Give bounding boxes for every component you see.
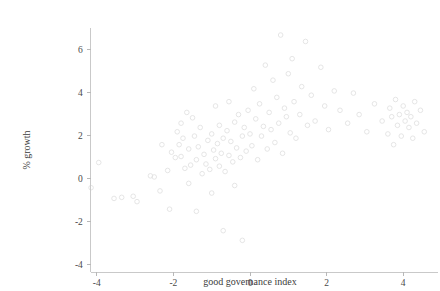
data-point [221,136,226,141]
data-point [422,129,427,134]
data-point [395,123,400,128]
data-point [338,108,343,113]
data-point [405,110,410,115]
data-point [190,116,195,121]
data-point [290,56,295,61]
data-point [294,136,299,141]
data-point [211,148,216,153]
data-point [179,121,184,126]
data-point [206,138,211,143]
data-point [194,209,199,214]
data-point [409,114,414,119]
data-point [278,33,283,38]
data-point [276,121,281,126]
data-point [345,121,350,126]
data-point [407,125,412,130]
data-point [234,146,239,151]
data-point [209,191,214,196]
data-point [372,102,377,107]
data-point [259,134,264,139]
data-point [397,112,402,117]
data-point [275,95,280,100]
data-point [365,129,370,134]
data-point [192,134,197,139]
data-point [265,147,270,152]
data-point [204,162,209,167]
y-axis-title: % growth [21,130,32,169]
data-point [252,86,257,91]
data-point [240,238,245,243]
y-tick-label: 2 [78,131,83,141]
data-point [229,139,234,144]
data-point [219,151,224,156]
data-point [299,84,304,89]
x-axis-title: good governance index [203,276,296,287]
data-point [387,106,392,111]
data-point [96,160,101,165]
data-point [240,134,245,139]
data-point [267,110,272,115]
data-point [326,127,331,132]
data-point [207,167,212,172]
data-point [244,149,249,154]
data-point [286,71,291,76]
data-point [215,141,220,146]
plot-canvas: -4-2024-4-20246 good governance index % … [0,0,440,291]
data-point [257,102,262,107]
data-point [288,131,293,136]
data-point [391,142,396,147]
data-point [158,189,163,194]
data-point [401,104,406,109]
x-tick-label: -2 [169,278,177,288]
data-point [185,110,190,115]
data-point [173,155,178,160]
data-point [179,154,184,159]
data-point [209,132,214,137]
data-point [319,65,324,70]
scatter-plot-figure: -4-2024-4-20246 good governance index % … [0,0,440,291]
tick-labels-group: -4-2024-4-20246 [75,45,406,289]
data-point [410,136,415,141]
data-point [248,132,253,137]
data-point [303,39,308,44]
data-points-group [89,33,427,243]
data-point [284,114,289,119]
data-point [213,104,218,109]
data-point [167,207,172,212]
data-point [227,99,232,104]
data-point [160,142,165,147]
data-point [292,99,297,104]
data-point [119,195,124,200]
data-point [322,104,327,109]
data-point [181,136,186,141]
data-point [403,119,408,124]
data-point [246,108,251,113]
axes-group [91,28,438,273]
data-point [380,119,385,124]
y-tick-label: -2 [75,217,83,227]
data-point [261,124,266,129]
data-point [399,134,404,139]
data-point [196,145,201,150]
data-point [198,125,203,130]
data-point [273,140,278,145]
y-tick-label: -4 [75,260,83,270]
data-point [232,183,237,188]
data-point [202,152,207,157]
data-point [418,108,423,113]
data-point [131,194,136,199]
data-point [271,78,276,83]
data-point [213,156,218,161]
data-point [242,125,247,130]
x-tick-label: -4 [93,278,101,288]
y-tick-label: 0 [78,174,83,184]
y-tick-label: 4 [78,88,83,98]
data-point [135,199,140,204]
data-point [112,196,117,201]
data-point [313,119,318,124]
data-point [309,93,314,98]
data-point [227,153,232,158]
data-point [232,120,237,125]
data-point [188,163,193,168]
data-point [386,132,391,137]
